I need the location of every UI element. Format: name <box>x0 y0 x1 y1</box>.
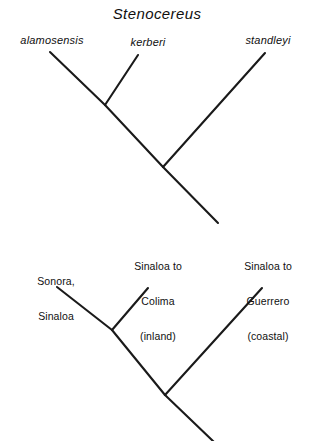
range-label-line: (inland) <box>108 331 208 343</box>
taxon-label-kerberi: kerberi <box>102 36 194 48</box>
genus-title: Stenocereus <box>0 6 314 23</box>
taxon-label-standleyi: standleyi <box>222 34 314 46</box>
range-label-sinaloa-guerrero-coastal: Sinaloa to Guerrero (coastal) <box>222 237 314 366</box>
range-label-line: Colima <box>108 296 208 308</box>
branch-standleyi <box>163 53 265 167</box>
taxon-label-alamosensis: alamosensis <box>0 34 104 46</box>
range-label-sinaloa-colima-inland: Sinaloa to Colima (inland) <box>108 237 208 366</box>
branch-internal-upper <box>105 105 163 167</box>
cladogram-figure: Stenocereus alamosensis kerberi standley… <box>0 0 314 441</box>
range-label-sonora-sinaloa: Sonora, Sinaloa <box>8 252 104 346</box>
branch-kerberi <box>105 55 138 105</box>
range-label-line: (coastal) <box>222 331 314 343</box>
cladogram-lines <box>0 0 314 441</box>
range-label-line: Sinaloa to <box>222 261 314 273</box>
range-label-line: Sinaloa to <box>108 261 208 273</box>
range-label-line: Guerrero <box>222 296 314 308</box>
branch-alamosensis <box>50 52 105 105</box>
range-label-line: Sonora, <box>8 276 104 288</box>
branch-root-upper <box>163 167 218 223</box>
range-label-line: Sinaloa <box>8 311 104 323</box>
branch-root-lower <box>165 395 214 441</box>
